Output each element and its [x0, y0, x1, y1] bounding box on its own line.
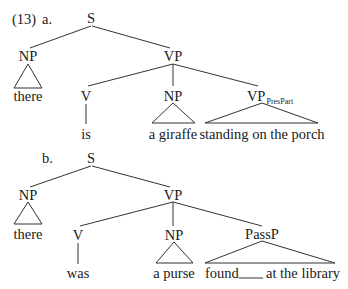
- leaf-at-the-library: at the library: [266, 265, 340, 281]
- leaf-found: found: [205, 265, 239, 281]
- node-vp: VP: [164, 187, 183, 203]
- node-np-object: NP: [165, 227, 184, 243]
- node-s: S: [87, 10, 95, 26]
- node-s: S: [87, 150, 95, 166]
- node-np-object: NP: [164, 88, 183, 104]
- leaf-was: was: [67, 265, 90, 281]
- category-label: VP: [247, 88, 266, 104]
- subscript: PresPart: [266, 97, 293, 106]
- node-v: V: [81, 88, 91, 104]
- tree-lines: [0, 0, 348, 289]
- leaf-a-giraffe: a giraffe: [149, 126, 197, 142]
- node-np-subject: NP: [19, 187, 38, 203]
- tree-a-label: a.: [42, 11, 52, 27]
- leaf-a-purse: a purse: [153, 265, 194, 281]
- tree-b-label: b.: [42, 150, 53, 166]
- example-number: (13): [12, 11, 36, 27]
- node-vp: VP: [164, 48, 183, 64]
- node-v: V: [73, 227, 83, 243]
- node-passp: PassP: [245, 226, 279, 242]
- leaf-there: there: [14, 226, 43, 242]
- leaf-is: is: [81, 126, 91, 142]
- leaf-there: there: [14, 88, 43, 104]
- leaf-standing-on-the-porch: standing on the porch: [199, 126, 324, 142]
- node-vp-prespart: VPPresPart: [247, 88, 293, 110]
- node-np-subject: NP: [19, 48, 38, 64]
